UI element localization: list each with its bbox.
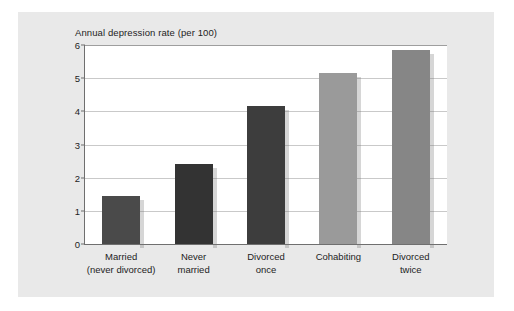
y-axis-label-0: 0 (75, 239, 80, 250)
bar[interactable] (392, 50, 430, 244)
x-axis-category-label: Divorcedtwice (355, 251, 467, 276)
y-axis-label-1: 1 (75, 205, 80, 216)
y-axis-label-3: 3 (75, 139, 80, 150)
y-axis-label-6: 6 (75, 40, 80, 51)
y-axis-label-2: 2 (75, 172, 80, 183)
figure-panel: Annual depression rate (per 100) 0123456… (18, 12, 494, 297)
bar[interactable] (319, 73, 357, 244)
bar[interactable] (102, 196, 140, 244)
category-label-line2: twice (355, 264, 467, 277)
bar-group: Nevermarried (157, 45, 229, 244)
bar[interactable] (247, 106, 285, 244)
bar-group: Cohabiting (302, 45, 374, 244)
category-label-line1: Divorced (355, 251, 467, 264)
bar-group: Divorcedonce (230, 45, 302, 244)
plot-area: 0123456Married(never divorced)Nevermarri… (84, 45, 447, 245)
bar[interactable] (175, 164, 213, 244)
category-label-line2: once (210, 264, 322, 277)
y-axis-label-5: 5 (75, 73, 80, 84)
bar-group: Divorcedtwice (375, 45, 447, 244)
chart-title: Annual depression rate (per 100) (75, 27, 217, 38)
bar-group: Married(never divorced) (85, 45, 157, 244)
y-axis-label-4: 4 (75, 106, 80, 117)
